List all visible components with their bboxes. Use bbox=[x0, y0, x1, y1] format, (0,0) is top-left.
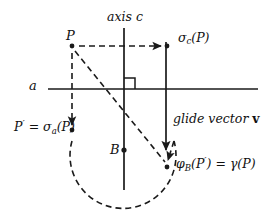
point-p-dot bbox=[70, 44, 75, 49]
sigma-c-p-label: σc(P) bbox=[178, 32, 209, 46]
glide-vector-label: glide vector v bbox=[173, 113, 260, 126]
point-b-label: B bbox=[110, 143, 120, 156]
point-sigma-c-p-dot bbox=[165, 44, 170, 49]
line-a-label: a bbox=[29, 79, 37, 92]
point-p-label: P bbox=[66, 29, 75, 42]
dashed-line-p-to-phi-b bbox=[75, 51, 165, 162]
figure-canvas bbox=[0, 0, 272, 215]
point-b-dot bbox=[121, 147, 126, 152]
point-phi-b-p-prime-dot bbox=[165, 165, 170, 170]
geometry-figure: axis c P σc(P) a P′ = σa(P) glide vector… bbox=[0, 0, 272, 215]
phi-b-p-prime-label: φB(P′) = γ(P) bbox=[176, 156, 256, 172]
axis-c-label: axis c bbox=[107, 11, 143, 24]
right-angle-marker bbox=[124, 78, 135, 89]
dashed-rotation-arc-tip bbox=[168, 141, 174, 160]
p-prime-label: P′ = σa(P) bbox=[14, 119, 75, 135]
